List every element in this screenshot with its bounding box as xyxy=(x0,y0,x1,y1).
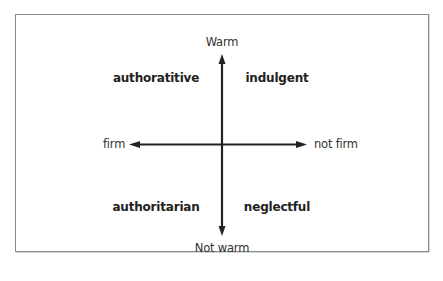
horizontal-axis-arrow xyxy=(129,141,307,148)
quadrant-neglectful: neglectful xyxy=(244,200,310,214)
axis-label-not-warm: Not warm xyxy=(195,241,249,255)
axis-label-not-firm: not firm xyxy=(314,137,358,151)
quadrant-authoritarian: authoritarian xyxy=(112,200,199,214)
quadrant-indulgent: indulgent xyxy=(245,71,308,85)
axis-label-warm: Warm xyxy=(206,35,239,49)
quadrant-authoritative: authoratitive xyxy=(113,71,199,85)
axis-label-firm: firm xyxy=(103,137,125,151)
